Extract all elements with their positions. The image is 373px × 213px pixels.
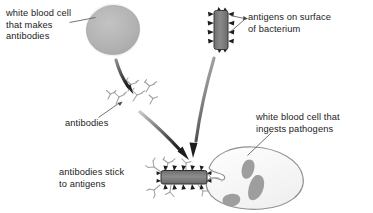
- leader-antigen-upper: [231, 16, 245, 19]
- lymphocyte-cell: [86, 4, 141, 57]
- phagocyte-cell: [206, 147, 303, 209]
- diagram-canvas: white blood cell that makes antibodies a…: [0, 0, 373, 213]
- label-antibodies-stick-to-antigens: antibodies stick to antigens: [59, 167, 124, 190]
- antigen-spikes-left: [208, 12, 214, 44]
- antibody: [145, 80, 157, 92]
- bacterium-top: [208, 7, 235, 53]
- label-white-blood-cell-antibodies: white blood cell that makes antibodies: [6, 8, 71, 43]
- antibody: [149, 95, 158, 104]
- leader-antigen-lower: [229, 20, 245, 34]
- antibody: [114, 91, 127, 105]
- leader-antibodies: [99, 104, 119, 118]
- arrow-bacterium-to-complex: [190, 58, 215, 158]
- antibody: [132, 88, 145, 101]
- arrow-antibodies-to-complex: [140, 112, 189, 160]
- arrow-lymphocyte-to-antibodies: [116, 60, 134, 95]
- label-white-blood-cell-ingests: white blood cell that ingests pathogens: [256, 112, 340, 135]
- bacterium-bottom-complex: [146, 157, 212, 198]
- label-antigens-on-surface: antigens on surface of bacterium: [248, 12, 331, 35]
- label-antibodies: antibodies: [65, 118, 108, 130]
- antibody: [107, 91, 116, 100]
